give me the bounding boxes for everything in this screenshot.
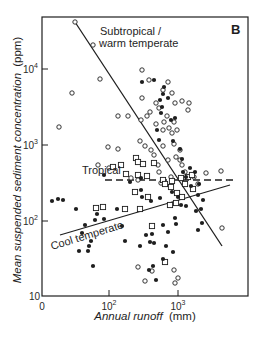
filled-circle-point (199, 207, 203, 211)
filled-circle-point (162, 85, 166, 89)
open-circle-point (138, 139, 142, 143)
open-circle-point (145, 114, 149, 118)
open-circle-point (174, 155, 178, 159)
open-circle-point (172, 268, 176, 272)
open-circle-point (148, 110, 152, 114)
open-circle-point (220, 226, 224, 230)
open-circle-point (154, 122, 158, 126)
filled-circle-point (158, 196, 162, 200)
open-circle-point (176, 276, 180, 280)
open-circle-point (73, 20, 77, 24)
open-square-point (174, 190, 179, 195)
open-circle-point (116, 147, 120, 151)
open-square-point (168, 184, 173, 189)
filled-circle-point (171, 250, 175, 254)
open-circle-point (140, 68, 144, 72)
plot-frame (42, 17, 248, 296)
x-tick-base: 0 (39, 301, 45, 312)
open-circle-point (143, 279, 147, 283)
open-circle-point (91, 43, 95, 47)
open-circle-point (70, 91, 74, 95)
open-square-point (93, 205, 98, 210)
filled-circle-point (74, 207, 78, 211)
y-tick-exp: 4 (34, 62, 38, 69)
y-tick-label: 103 (23, 138, 38, 151)
open-circle-point (161, 144, 165, 148)
open-circle-point (157, 170, 161, 174)
open-square-point (144, 173, 149, 178)
filled-circle-point (161, 257, 165, 261)
open-square-point (182, 181, 187, 186)
filled-circle-point (176, 195, 180, 199)
x-axis-ticks: 0102103 (39, 290, 185, 312)
open-circle-point (167, 126, 171, 130)
open-square-point (140, 161, 145, 166)
open-circle-point (106, 145, 110, 149)
filled-circle-point (166, 230, 170, 234)
filled-circle-point (95, 212, 99, 216)
filled-circle-point (159, 111, 163, 115)
open-circle-point (140, 96, 144, 100)
filled-circle-point (147, 268, 151, 272)
filled-circle-point (56, 197, 60, 201)
filled-circle-point (138, 244, 142, 248)
annotation-label: warm temperate (98, 37, 178, 49)
open-circle-point (175, 128, 179, 132)
filled-circle-point (181, 170, 185, 174)
open-square-point (100, 204, 105, 209)
open-circle-point (186, 108, 190, 112)
annotation-label: Subtropical / (100, 25, 162, 37)
open-square-point (178, 175, 183, 180)
open-square-point (132, 189, 137, 194)
filled-circle-point (169, 118, 173, 122)
filled-circle-point (87, 244, 91, 248)
filled-circle-point (149, 199, 153, 203)
open-circle-point (149, 148, 153, 152)
scatter-chart: B 10102103104 0102103 Subtropical /warm … (0, 0, 255, 337)
filled-circle-point (139, 188, 143, 192)
filled-circle-point (151, 264, 155, 268)
open-circle-point (129, 176, 133, 180)
filled-circle-point (115, 207, 119, 211)
annotation-label: Tropical (82, 164, 121, 176)
y-tick-base: 10 (23, 216, 35, 227)
y-tick-label: 104 (23, 62, 38, 75)
filled-circle-point (158, 98, 162, 102)
open-square-point (179, 194, 184, 199)
y-tick-exp: 3 (34, 138, 38, 145)
open-square-point (135, 159, 140, 164)
filled-circle-point (196, 228, 200, 232)
open-circle-point (152, 153, 156, 157)
open-square-point (145, 194, 150, 199)
open-circle-point (180, 163, 184, 167)
open-circle-point (173, 101, 177, 105)
filled-circle-point (173, 216, 177, 220)
filled-circle-point (77, 249, 81, 253)
filled-circle-point (148, 240, 152, 244)
open-square-point (149, 223, 154, 228)
filled-circle-point (140, 80, 144, 84)
filled-circle-point (50, 199, 54, 203)
open-circle-point (170, 91, 174, 95)
filled-circle-point (184, 175, 188, 179)
y-tick-base: 10 (23, 64, 35, 75)
filled-circle-point (139, 176, 143, 180)
filled-circle-point (201, 198, 205, 202)
open-circle-point (57, 125, 61, 129)
filled-circle-point (128, 180, 132, 184)
filled-circle-point (160, 105, 164, 109)
open-square-point (151, 160, 156, 165)
open-square-point (122, 206, 127, 211)
open-circle-point (204, 171, 208, 175)
filled-circle-point (102, 217, 106, 221)
open-circle-point (116, 114, 120, 118)
open-circle-point (154, 101, 158, 105)
filled-circle-point (194, 209, 198, 213)
filled-circle-point (164, 244, 168, 248)
filled-circle-point (184, 204, 188, 208)
filled-circle-point (179, 203, 183, 207)
filled-circle-point (86, 249, 90, 253)
filled-circle-point (61, 198, 65, 202)
filled-circle-point (161, 92, 165, 96)
open-square-point (167, 202, 172, 207)
